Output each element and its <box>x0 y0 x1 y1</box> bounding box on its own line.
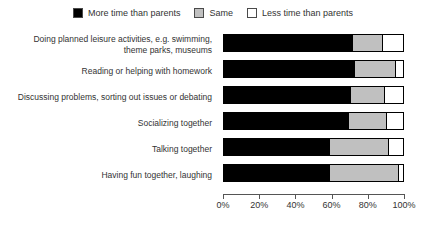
bar-segment-less-time <box>389 139 403 155</box>
plot-area <box>223 34 404 194</box>
bar-segment-less-time <box>383 35 403 51</box>
x-axis-tick-label: 60% <box>315 200 349 210</box>
category-label-line: theme parks, museums <box>0 45 212 56</box>
bar-segment-more-time <box>224 165 330 181</box>
x-axis-line <box>223 194 405 195</box>
category-label: Talking together <box>0 144 212 155</box>
bar-segment-same <box>355 61 396 77</box>
bar-segment-same <box>330 139 389 155</box>
legend-swatch-same <box>194 8 204 18</box>
bar-row <box>223 112 404 130</box>
bar-segment-less-time <box>396 61 403 77</box>
legend-item-more-time: More time than parents <box>73 8 181 18</box>
bar-segment-same <box>330 165 400 181</box>
stacked-bar-chart: More time than parents Same Less time th… <box>0 0 426 229</box>
legend-label-less-time: Less time than parents <box>262 9 353 18</box>
x-axis-tick <box>223 195 224 199</box>
legend-item-same: Same <box>194 8 233 18</box>
bar-segment-more-time <box>224 87 351 103</box>
x-axis-tick <box>259 195 260 199</box>
bar-row <box>223 138 404 156</box>
bar-row <box>223 164 404 182</box>
category-label: Reading or helping with homework <box>0 66 212 77</box>
category-label-line: Talking together <box>0 144 212 155</box>
bar-row <box>223 60 404 78</box>
x-axis-tick <box>404 195 405 199</box>
category-label: Doing planned leisure activities, e.g. s… <box>0 34 212 56</box>
x-axis-tick-label: 40% <box>278 200 312 210</box>
chart-legend: More time than parents Same Less time th… <box>0 8 426 18</box>
category-label: Discussing problems, sorting out issues … <box>0 92 212 103</box>
x-axis-tick-label: 100% <box>387 200 421 210</box>
x-axis-tick <box>295 195 296 199</box>
bar-segment-less-time <box>387 113 403 129</box>
legend-item-less-time: Less time than parents <box>247 8 353 18</box>
category-label: Socializing together <box>0 118 212 129</box>
bar-segment-more-time <box>224 61 355 77</box>
legend-label-more-time: More time than parents <box>88 9 181 18</box>
bar-segment-less-time <box>399 165 403 181</box>
category-label-line: Discussing problems, sorting out issues … <box>0 92 212 103</box>
bar-segment-more-time <box>224 35 353 51</box>
bar-segment-more-time <box>224 113 349 129</box>
category-label: Having fun together, laughing <box>0 170 212 181</box>
bar-segment-less-time <box>385 87 403 103</box>
x-axis-tick-label: 0% <box>206 200 240 210</box>
legend-label-same: Same <box>209 9 233 18</box>
x-axis-tick <box>332 195 333 199</box>
legend-swatch-less-time <box>247 8 257 18</box>
category-label-line: Doing planned leisure activities, e.g. s… <box>0 34 212 45</box>
category-label-line: Socializing together <box>0 118 212 129</box>
bar-row <box>223 86 404 104</box>
legend-swatch-more-time <box>73 8 83 18</box>
bars-layer <box>223 34 404 194</box>
category-label-line: Reading or helping with homework <box>0 66 212 77</box>
bar-segment-same <box>351 87 385 103</box>
x-axis-tick-label: 20% <box>242 200 276 210</box>
bar-segment-more-time <box>224 139 330 155</box>
bar-segment-same <box>353 35 383 51</box>
bar-segment-same <box>349 113 387 129</box>
category-axis-labels: Doing planned leisure activities, e.g. s… <box>0 34 218 194</box>
bar-row <box>223 34 404 52</box>
x-axis-tick-label: 80% <box>351 200 385 210</box>
x-axis-tick <box>368 195 369 199</box>
category-label-line: Having fun together, laughing <box>0 170 212 181</box>
